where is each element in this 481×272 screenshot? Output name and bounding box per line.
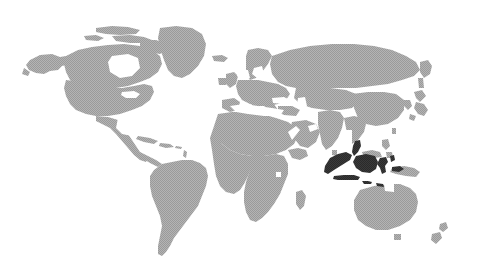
region-ireland — [218, 78, 226, 85]
water-lake-victoria — [276, 172, 281, 177]
water-bay-of-bengal — [344, 130, 352, 144]
world-map-svg — [0, 0, 481, 272]
water-carpentaria — [384, 184, 394, 192]
world-map-figure: World map with highlighted region — [0, 0, 481, 272]
region-sakhalin — [418, 78, 424, 88]
region-tasmania — [394, 234, 401, 240]
region-java-highlight — [333, 175, 360, 180]
region-taiwan — [392, 128, 396, 134]
